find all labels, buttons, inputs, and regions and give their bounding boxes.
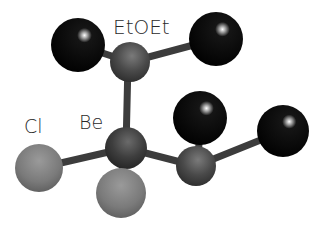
chlorine-atom-left <box>15 144 63 192</box>
chlorine-label: Cl <box>24 117 43 136</box>
carbon-atom-top-left <box>51 18 105 72</box>
carbon-atom-right-upper <box>173 91 227 145</box>
beryllium-atom <box>105 127 147 169</box>
oxygen-atom-top <box>110 42 150 82</box>
beryllium-label: Be <box>79 113 103 132</box>
ether-label: EtOEt <box>113 17 170 37</box>
carbon-atom-top-right <box>189 12 243 66</box>
atoms <box>15 12 309 218</box>
molecule-diagram: EtOEt Cl Be <box>0 0 327 234</box>
oxygen-atom-right <box>176 146 216 186</box>
carbon-atom-far-right <box>257 105 309 157</box>
chlorine-atom-bottom <box>96 168 146 218</box>
